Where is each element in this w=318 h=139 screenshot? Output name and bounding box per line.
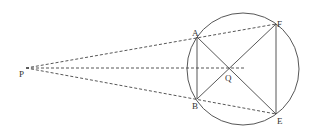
segment-BF — [197, 24, 276, 99]
label-B: B — [192, 101, 198, 111]
label-Q: Q — [225, 73, 232, 83]
dashed-PE — [26, 68, 276, 114]
label-A: A — [192, 28, 199, 38]
label-E: E — [277, 116, 283, 126]
label-P: P — [19, 69, 24, 79]
geometry-diagram: P A B E F Q — [0, 0, 318, 139]
label-F: F — [277, 19, 282, 29]
dashed-PF — [26, 24, 276, 68]
segment-AE — [197, 37, 276, 114]
